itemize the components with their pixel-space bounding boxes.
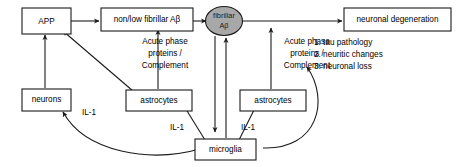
node-astrocytes-right[interactable]: astrocytes — [240, 90, 306, 111]
node-app-label: APP — [38, 17, 55, 26]
outcome-list-item-3: 3. neuronal loss — [314, 62, 372, 71]
acute-phase-left-line1: Acute phase — [142, 37, 188, 46]
node-fibrillar-abeta-label-line2: Aβ — [219, 21, 228, 30]
node-neurons[interactable]: neurons — [22, 89, 71, 111]
diagram-canvas: APP non/low fibrillar Aβ fibrillar Aβ ne… — [0, 0, 463, 167]
node-astrocytes-left[interactable]: astrocytes — [126, 90, 192, 111]
acute-phase-left-line3: Complement — [142, 61, 189, 70]
edge-label-il1-astrocytes-right: IL-1 — [241, 123, 256, 132]
outcome-list-item-1: 1. tau pathology — [314, 38, 373, 47]
node-neurons-label: neurons — [32, 95, 62, 104]
node-fibrillar-abeta-label-line1: fibrillar — [213, 11, 235, 20]
edge-label-il1-neurons: IL-1 — [82, 108, 97, 117]
outcome-list: 1. tau pathology 2. neuritic changes 3. … — [314, 38, 383, 71]
node-app[interactable]: APP — [22, 8, 71, 34]
node-astrocytes-left-label: astrocytes — [140, 96, 177, 105]
node-astrocytes-right-label: astrocytes — [254, 96, 291, 105]
node-neuronal-degeneration-label: neuronal degeneration — [357, 15, 439, 24]
node-non-low-fibrillar-abeta-label: non/low fibrillar Aβ — [114, 15, 181, 24]
node-non-low-fibrillar-abeta[interactable]: non/low fibrillar Aβ — [101, 8, 193, 31]
node-microglia-label: microglia — [209, 145, 242, 154]
edge-astrocytes-left-to-app — [63, 31, 133, 91]
edge-label-il1-astrocytes-left: IL-1 — [170, 123, 185, 132]
node-neuronal-degeneration[interactable]: neuronal degeneration — [344, 8, 451, 31]
acute-phase-left-line2: proteins / — [148, 49, 182, 58]
diagram-svg: APP non/low fibrillar Aβ fibrillar Aβ ne… — [0, 0, 463, 167]
edge-label-acute-phase-left: Acute phase proteins / Complement — [142, 37, 189, 70]
outcome-list-item-2: 2. neuritic changes — [314, 50, 383, 59]
node-microglia[interactable]: microglia — [195, 139, 256, 160]
edge-microglia-to-neurons — [63, 112, 203, 155]
node-fibrillar-abeta[interactable]: fibrillar Aβ — [206, 7, 243, 36]
